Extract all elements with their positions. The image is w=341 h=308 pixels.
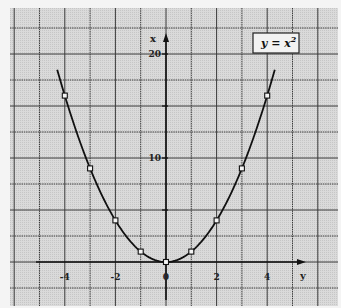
x-tick-label: -4 xyxy=(60,272,70,282)
data-point-marker xyxy=(239,166,244,171)
data-point-marker xyxy=(62,93,67,98)
data-point-marker xyxy=(214,218,219,223)
legend-text: y = x xyxy=(260,37,291,50)
x-tick-label: 2 xyxy=(213,272,219,282)
data-point-marker xyxy=(138,249,143,254)
x-tick-label: -2 xyxy=(110,272,120,282)
data-point-marker xyxy=(265,93,270,98)
x-tick-label: 0 xyxy=(163,272,169,282)
data-point-marker xyxy=(164,260,169,265)
data-point-marker xyxy=(189,249,194,254)
legend-box: y = x2 xyxy=(253,33,299,53)
legend-superscript: 2 xyxy=(290,34,297,44)
x-tick-label: 4 xyxy=(264,272,270,282)
y-axis-label: x xyxy=(150,33,157,44)
y-tick-label: 20 xyxy=(148,49,161,59)
x-axis-label: y xyxy=(299,270,307,281)
y-tick-label: 10 xyxy=(148,153,161,163)
data-point-marker xyxy=(113,218,118,223)
parabola-chart: -4-20241020yx y = x2 xyxy=(0,0,341,308)
data-point-marker xyxy=(88,166,93,171)
